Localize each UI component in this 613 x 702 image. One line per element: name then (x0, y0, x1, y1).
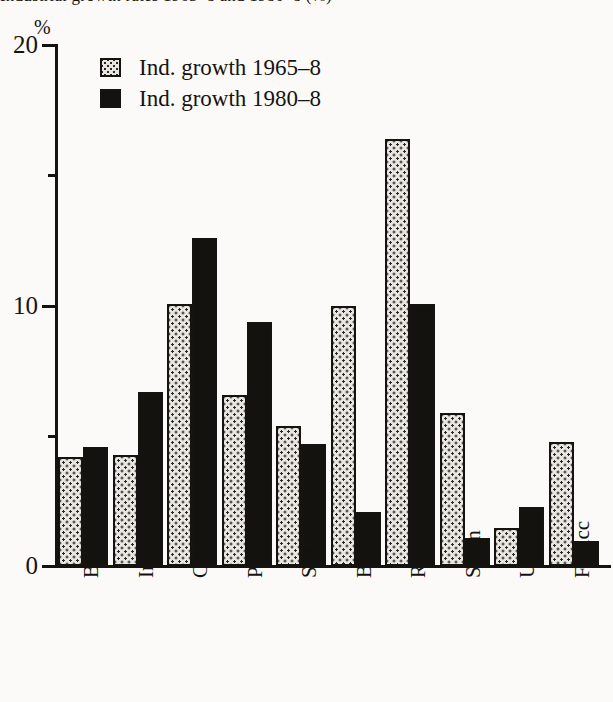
legend-item: Ind. growth 1965–8 (100, 52, 400, 83)
x-axis-label: Rep. Korea (408, 458, 429, 578)
x-axis-label: Spain (463, 458, 484, 578)
x-axis-label: UK (517, 458, 538, 578)
y-tick-label: 0 (0, 553, 38, 578)
y-tick-label: 20 (0, 32, 38, 57)
y-tick-minor (48, 435, 58, 438)
x-axis-label: Sri Lanka (299, 458, 320, 578)
x-axis-label: India (136, 458, 157, 578)
y-tick-major (42, 44, 58, 47)
legend-label: Ind. growth 1980–8 (139, 87, 321, 110)
legend-swatch-icon (100, 89, 121, 108)
y-tick-label: 10 (0, 293, 38, 318)
y-tick-minor (48, 174, 58, 177)
y-tick-major (42, 565, 58, 568)
x-axis-label: Pakistan (245, 458, 266, 578)
bar (167, 304, 192, 567)
legend-label: Ind. growth 1965–8 (139, 56, 321, 79)
chart-page: Industrial growth rates 1965–8 and 1980–… (0, 0, 613, 702)
chart-legend: Ind. growth 1965–8Ind. growth 1980–8 (100, 52, 400, 114)
x-axis-label: Brazil (354, 458, 375, 578)
x-axis-label: Francc (572, 458, 593, 578)
x-axis-label: Bangladesh (81, 458, 102, 578)
legend-swatch-icon (100, 58, 121, 77)
legend-item: Ind. growth 1980–8 (100, 83, 400, 114)
x-axis-label: China (190, 458, 211, 578)
y-tick-major (42, 305, 58, 308)
